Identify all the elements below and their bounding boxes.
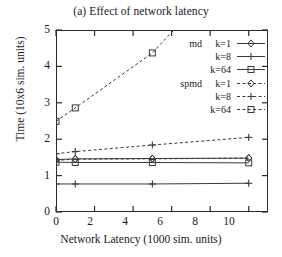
- legend-label-md-k64: k=64: [205, 63, 231, 76]
- legend-item-md-k64: k=64: [168, 63, 266, 76]
- legend-label-spmd-k64: k=64: [205, 103, 231, 116]
- legend-label-md-k1: k=1: [205, 37, 231, 50]
- legend-swatch-md-k64: [236, 63, 266, 76]
- legend-item-md-k1: md k=1: [168, 37, 266, 50]
- chart-figure: (a) Effect of network latency Time (10x6…: [0, 0, 282, 257]
- x-tick-label-10: 10: [219, 216, 239, 228]
- x-axis-label: Network Latency (1000 sim. units): [0, 233, 282, 245]
- legend-label-md-k8: k=8: [205, 50, 231, 63]
- x-tick-label-8: 8: [185, 216, 205, 228]
- x-tick-label-0: 0: [46, 216, 66, 228]
- legend-swatch-md-k8: [236, 50, 266, 63]
- legend-prefix-spmd: spmd: [168, 77, 205, 90]
- x-tick-label-4: 4: [115, 216, 135, 228]
- legend-label-spmd-k8: k=8: [205, 90, 231, 103]
- x-tick-label-6: 6: [150, 216, 170, 228]
- x-tick-label-2: 2: [80, 216, 100, 228]
- legend-swatch-spmd-k1: [236, 77, 266, 90]
- y-tick-label-1: 1: [30, 170, 50, 182]
- legend-item-md-k8: k=8: [168, 50, 266, 63]
- legend-item-spmd-k64: k=64: [168, 103, 266, 116]
- chart-title: (a) Effect of network latency: [0, 5, 282, 17]
- legend-swatch-spmd-k8: [236, 90, 266, 103]
- legend-prefix-md: md: [168, 37, 205, 50]
- legend-label-spmd-k1: k=1: [205, 77, 231, 90]
- legend-item-spmd-k8: k=8: [168, 90, 266, 103]
- y-tick-label-4: 4: [30, 60, 50, 72]
- y-tick-label-5: 5: [30, 24, 50, 36]
- y-tick-label-2: 2: [30, 133, 50, 145]
- legend-item-spmd-k1: spmd k=1: [168, 77, 266, 90]
- chart-legend: md k=1 k=8 k=64 spmd k=1 k=8 k=64: [168, 37, 266, 116]
- legend-swatch-md-k1: [236, 37, 266, 50]
- y-axis-label: Time (10x6 sim. units): [14, 0, 26, 189]
- y-tick-label-3: 3: [30, 97, 50, 109]
- legend-swatch-spmd-k64: [236, 103, 266, 116]
